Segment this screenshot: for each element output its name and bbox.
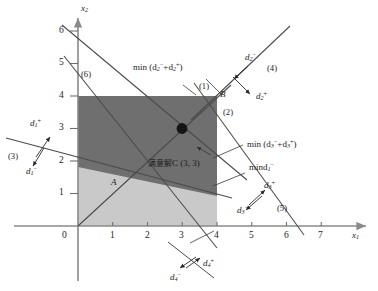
x-axis-label: x1 xyxy=(352,231,359,241)
satisfactory-solution-label: 满意解C (3, 3) xyxy=(148,159,200,168)
y-tick-2: 2 xyxy=(59,156,64,166)
y-tick-5: 5 xyxy=(59,58,64,68)
constraint-label-1: (1) xyxy=(199,82,209,91)
min-d2-objective-label: min (d2−+d2+) xyxy=(133,62,183,72)
d4-plus-label: d4+ xyxy=(203,258,214,268)
d4-minus-label: d4− xyxy=(170,272,181,282)
y-tick-6: 6 xyxy=(59,26,64,36)
leader-label-1 xyxy=(183,85,196,95)
d3-plus-label: d3+ xyxy=(264,180,275,190)
leader-x4-tick xyxy=(190,231,214,243)
x-tick-2: 2 xyxy=(145,231,150,241)
d2-plus-label: d2+ xyxy=(256,91,267,101)
x-tick-1: 1 xyxy=(110,231,115,241)
y-axis-ticks xyxy=(70,31,78,194)
d2-arrow-pair xyxy=(233,66,250,94)
y-tick-4: 4 xyxy=(59,91,64,101)
d1-minus-label: d1− xyxy=(26,166,37,176)
d2-minus-label: d2− xyxy=(245,52,256,62)
constraint-label-5: (5) xyxy=(277,204,287,213)
d3-minus-label: d3− xyxy=(237,205,248,215)
x-tick-4: 4 xyxy=(214,231,219,241)
x-tick-5: 5 xyxy=(249,231,254,241)
point-c-marker xyxy=(177,123,188,134)
origin-tick-label: 0 xyxy=(62,231,67,241)
figure-canvas xyxy=(0,0,378,291)
constraint-label-2: (2) xyxy=(223,108,233,117)
d1-arrow-pair xyxy=(33,137,50,166)
min-d1-objective-label: mind1− xyxy=(249,162,274,172)
y-tick-3: 3 xyxy=(59,123,64,133)
x-tick-7: 7 xyxy=(318,231,323,241)
leader-min-d3 xyxy=(213,145,243,158)
vertex-label-a: A xyxy=(111,178,117,187)
constraint-label-4: (4) xyxy=(267,64,277,73)
d1-plus-label: d1+ xyxy=(30,118,41,128)
leader-min-d1 xyxy=(213,173,245,186)
constraint-label-6: (6) xyxy=(81,70,91,79)
constraint-label-3: (3) xyxy=(8,152,18,161)
vertex-label-b: B xyxy=(220,90,226,99)
y-tick-1: 1 xyxy=(59,188,64,198)
min-d3-objective-label: min (d3−+d3+) xyxy=(247,139,297,149)
x-tick-6: 6 xyxy=(284,231,289,241)
d3-arrow-pair xyxy=(246,190,265,210)
goal-programming-figure: x2 x1 0 1 2 3 4 5 6 7 1 2 3 4 5 6 (6) (1… xyxy=(0,0,378,291)
y-axis-label: x2 xyxy=(81,4,88,14)
x-tick-3: 3 xyxy=(179,231,184,241)
